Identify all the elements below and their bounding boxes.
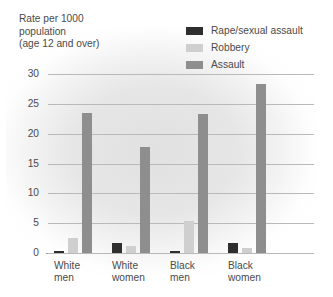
bar-rape-sexual-assault xyxy=(112,243,122,253)
x-axis-label-black-women: Black women xyxy=(228,260,261,285)
chart-legend: Rape/sexual assault Robbery Assault xyxy=(186,23,303,74)
legend-label-rape-sexual-assault: Rape/sexual assault xyxy=(211,25,303,36)
legend-label-robbery: Robbery xyxy=(211,42,250,53)
bar-robbery xyxy=(184,221,194,253)
y-axis-tick-label: 15 xyxy=(28,158,39,169)
y-axis-tick-label: 25 xyxy=(28,98,39,109)
y-axis-title: Rate per 1000 population (age 12 and ove… xyxy=(19,13,169,51)
bar-robbery xyxy=(242,248,252,253)
y-axis-tick-label: 0 xyxy=(33,247,39,258)
x-axis-label-white-men: White men xyxy=(54,260,80,285)
legend-item-robbery: Robbery xyxy=(186,40,303,55)
chart-figure: Rate per 1000 population (age 12 and ove… xyxy=(0,0,333,297)
bar-group-white-women: White women xyxy=(112,74,154,253)
bar-assault xyxy=(82,113,92,253)
y-axis-tick-label: 10 xyxy=(28,188,39,199)
legend-item-rape-sexual-assault: Rape/sexual assault xyxy=(186,23,303,38)
plot-area: 051015202530White menWhite womenBlack me… xyxy=(48,74,314,253)
bar-group-black-women: Black women xyxy=(228,74,270,253)
bar-rape-sexual-assault xyxy=(170,251,180,253)
bar-assault xyxy=(140,147,150,253)
legend-item-assault: Assault xyxy=(186,57,303,72)
legend-swatch-robbery xyxy=(186,44,203,52)
bar-assault xyxy=(198,114,208,253)
x-axis-label-black-men: Black men xyxy=(170,260,195,285)
bar-robbery xyxy=(126,246,136,253)
x-axis-label-white-women: White women xyxy=(112,260,145,285)
legend-label-assault: Assault xyxy=(211,59,244,70)
bar-rape-sexual-assault xyxy=(54,251,64,253)
legend-swatch-rape-sexual-assault xyxy=(186,27,203,35)
bar-assault xyxy=(256,84,266,253)
y-axis-tick-label: 5 xyxy=(33,217,39,228)
legend-swatch-assault xyxy=(186,61,203,69)
gridline-0: 0 xyxy=(48,253,314,254)
y-axis-tick-label: 30 xyxy=(28,68,39,79)
bar-group-white-men: White men xyxy=(54,74,96,253)
bar-robbery xyxy=(68,238,78,254)
bar-group-black-men: Black men xyxy=(170,74,212,253)
bar-rape-sexual-assault xyxy=(228,243,238,253)
y-axis-tick-label: 20 xyxy=(28,128,39,139)
